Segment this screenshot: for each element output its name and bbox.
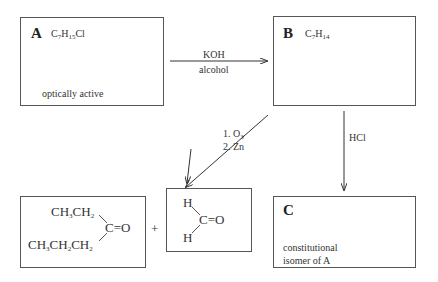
reagent-hcl: HCl — [349, 132, 366, 143]
reagent-ozonolysis-step2: 2. Zn — [223, 141, 244, 152]
reagent-ozonolysis-step1: 1. O3 — [223, 128, 244, 139]
reagent-alcohol: alcohol — [199, 64, 228, 75]
reagent-koh: KOH — [203, 49, 225, 60]
reaction-arrows — [0, 0, 438, 282]
arrow-branch — [187, 149, 191, 183]
